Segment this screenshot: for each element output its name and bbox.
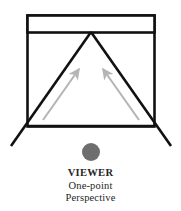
caption-line-one-point: One-point [0,180,181,193]
one-point-perspective-figure: VIEWER One-point Perspective [0,0,181,211]
horizon-lintel-bar [28,16,155,33]
caption-line-perspective: Perspective [0,192,181,205]
figure-caption: VIEWER One-point Perspective [0,167,181,205]
caption-line-viewer: VIEWER [0,167,181,180]
viewer-position-dot [82,143,100,161]
